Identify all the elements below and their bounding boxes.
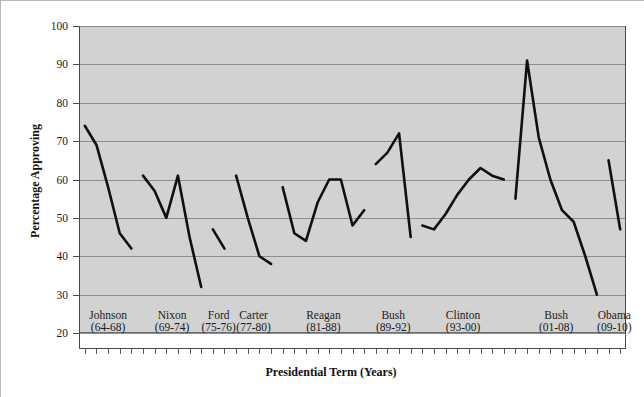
x-category-label-years: (64-68): [91, 321, 126, 334]
x-category-label-years: (69-74): [155, 321, 190, 334]
y-tick-label: 80: [57, 97, 69, 109]
plot-area: [79, 26, 626, 333]
x-category-label-name: Clinton: [446, 309, 481, 321]
y-tick-label: 50: [57, 212, 69, 224]
x-category-label-name: Obama: [598, 309, 631, 321]
y-tick-label: 90: [57, 58, 69, 70]
x-category-label-name: Carter: [239, 309, 268, 321]
x-category-label-years: (01-08): [539, 321, 574, 334]
x-category-label-name: Bush: [381, 309, 405, 321]
x-category-label-name: Bush: [544, 309, 568, 321]
chart-figure: 2030405060708090100 Johnson(64-68)Nixon(…: [0, 0, 644, 397]
x-category-label-name: Nixon: [158, 309, 187, 321]
y-tick-label: 70: [57, 135, 69, 147]
y-tick-label: 40: [57, 250, 69, 262]
y-tick-label: 100: [51, 20, 69, 32]
y-tick-label: 30: [57, 289, 69, 301]
y-axis-title: Percentage Approving: [28, 124, 42, 238]
x-category-label-years: (89-92): [376, 321, 411, 334]
x-category-label-years: (09-10): [597, 321, 632, 334]
x-category-label-name: Johnson: [89, 309, 127, 321]
approval-rating-line-chart: 2030405060708090100 Johnson(64-68)Nixon(…: [1, 1, 644, 397]
x-category-label-years: (77-80): [236, 321, 271, 334]
y-tick-label: 60: [57, 174, 69, 186]
y-tick-label: 20: [57, 327, 69, 339]
x-category-label-years: (81-88): [306, 321, 341, 334]
x-category-label-name: Ford: [208, 309, 230, 321]
x-axis-title: Presidential Term (Years): [265, 365, 396, 379]
x-category-label-years: (93-00): [446, 321, 481, 334]
x-category-label-years: (75-76): [201, 321, 236, 334]
